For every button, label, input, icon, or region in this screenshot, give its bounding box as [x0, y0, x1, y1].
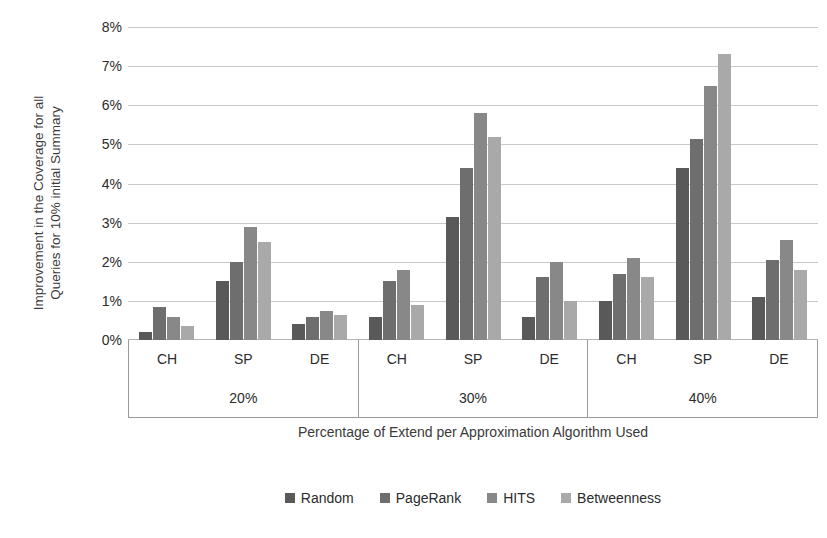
x-axis-title: Percentage of Extend per Approximation A… [128, 424, 818, 440]
y-axis-tick-label: 6% [78, 97, 122, 113]
axis-category-label: CH [129, 340, 205, 378]
bar [369, 317, 382, 340]
axis-category-row: CHSPDE [359, 340, 588, 378]
bar [613, 274, 626, 341]
y-axis-tick-label: 0% [78, 332, 122, 348]
bar-group [205, 27, 282, 340]
bar-supergroup [588, 27, 818, 340]
bar [474, 113, 487, 340]
bar [292, 324, 305, 340]
bar [522, 317, 535, 340]
axis-group: CHSPDE40% [587, 340, 817, 417]
bar-supergroup [128, 27, 358, 340]
legend-label: HITS [503, 490, 535, 506]
bar [139, 332, 152, 340]
bar [334, 315, 347, 340]
bar [258, 242, 271, 340]
bar-group [741, 27, 818, 340]
bar [383, 281, 396, 340]
bars-layer [128, 27, 818, 340]
legend-swatch-icon [380, 493, 390, 503]
axis-category-label: DE [281, 340, 357, 378]
bar [230, 262, 243, 340]
bar [181, 326, 194, 340]
bar [460, 168, 473, 340]
axis-group: CHSPDE20% [129, 340, 358, 417]
axis-category-label: CH [359, 340, 435, 378]
chart-legend: RandomPageRankHITSBetweenness [128, 486, 818, 510]
legend-swatch-icon [487, 493, 497, 503]
legend-swatch-icon [561, 493, 571, 503]
bar-group [588, 27, 665, 340]
bar-group [435, 27, 512, 340]
legend-item[interactable]: Random [285, 490, 354, 506]
y-axis-tick-labels: 8%7%6%5%4%3%2%1%0% [78, 18, 122, 342]
axis-group-label: 20% [129, 378, 358, 417]
axis-category-label: SP [435, 340, 511, 378]
axis-category-label: DE [511, 340, 587, 378]
bar [167, 317, 180, 340]
axis-category-row: CHSPDE [588, 340, 817, 378]
category-axis: CHSPDE20%CHSPDE30%CHSPDE40% [128, 340, 818, 418]
bar [690, 139, 703, 340]
y-axis-title-line1: Improvement in the Coverage for all [30, 96, 47, 311]
bar [794, 270, 807, 340]
axis-group-label: 30% [359, 378, 588, 417]
bar [780, 240, 793, 340]
bar [599, 301, 612, 340]
legend-item[interactable]: HITS [487, 490, 535, 506]
y-axis-tick-label: 3% [78, 215, 122, 231]
bar [564, 301, 577, 340]
legend-label: Betweenness [577, 490, 661, 506]
axis-category-label: DE [741, 340, 817, 378]
axis-category-row: CHSPDE [129, 340, 358, 378]
y-axis-tick-label: 2% [78, 254, 122, 270]
axis-category-label: SP [205, 340, 281, 378]
bar-group [358, 27, 435, 340]
bar [752, 297, 765, 340]
bar-group [665, 27, 742, 340]
bar [397, 270, 410, 340]
bar [718, 54, 731, 340]
bar [627, 258, 640, 340]
bar [704, 86, 717, 340]
y-axis-tick-label: 4% [78, 176, 122, 192]
bar [216, 281, 229, 340]
bar-group [281, 27, 358, 340]
y-axis-tick-label: 7% [78, 58, 122, 74]
bar [446, 217, 459, 340]
bar [153, 307, 166, 340]
legend-item[interactable]: Betweenness [561, 490, 661, 506]
bar [411, 305, 424, 340]
bar-chart: Improvement in the Coverage for all Quer… [0, 0, 827, 538]
bar [641, 277, 654, 340]
bar-group [511, 27, 588, 340]
legend-item[interactable]: PageRank [380, 490, 461, 506]
y-axis-title: Improvement in the Coverage for all Quer… [27, 38, 67, 368]
legend-label: PageRank [396, 490, 461, 506]
bar-supergroup [358, 27, 588, 340]
bar [676, 168, 689, 340]
bar [306, 317, 319, 340]
bar [488, 137, 501, 340]
y-axis-tick-label: 5% [78, 136, 122, 152]
axis-group: CHSPDE30% [358, 340, 588, 417]
y-axis-tick-label: 1% [78, 293, 122, 309]
bar [320, 311, 333, 340]
bar [550, 262, 563, 340]
bar [536, 277, 549, 340]
legend-label: Random [301, 490, 354, 506]
y-axis-tick-label: 8% [78, 19, 122, 35]
plot-area [128, 27, 818, 340]
legend-swatch-icon [285, 493, 295, 503]
bar [766, 260, 779, 340]
bar-group [128, 27, 205, 340]
axis-category-label: CH [588, 340, 664, 378]
axis-group-label: 40% [588, 378, 817, 417]
bar [244, 227, 257, 340]
y-axis-title-line2: Queries for 10% initial Summary [47, 106, 64, 300]
axis-category-label: SP [665, 340, 741, 378]
